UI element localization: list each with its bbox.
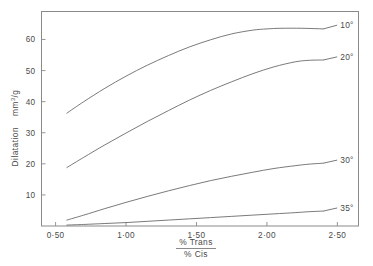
series-leader-line [323,160,337,163]
svg-text:Dilatation: Dilatation mm3/g [10,90,20,167]
series-line [67,163,323,220]
series-annotation-label: 20° [340,52,354,62]
plot-frame [42,12,359,227]
y-axis-tick-labels: 102030405060 [26,35,36,199]
series-annotation-labels: 10°20°30°35° [340,20,354,213]
x-axis-title: % Trans % Cis [176,237,216,259]
y-tick-label: 10 [26,191,36,200]
x-tick-label: 2·00 [258,231,276,240]
y-axis-ticks [42,39,46,194]
chart-canvas: 102030405060 0·501·001·502·002·50 10°20°… [0,0,373,266]
y-tick-label: 50 [26,67,36,76]
x-tick-label: 1·00 [117,231,135,240]
x-axis-title-numerator: % Trans [179,237,213,247]
x-tick-label: 0·50 [47,231,65,240]
series-leader-line [323,208,337,211]
series-annotation-label: 30° [340,155,354,165]
y-tick-label: 20 [26,160,36,169]
x-axis-title-denominator: % Cis [184,249,208,259]
series-line [67,60,323,168]
y-tick-label: 60 [26,35,36,44]
x-tick-label: 2·50 [328,231,346,240]
series-leader-line [323,25,337,29]
series-line [67,28,323,113]
y-axis-title-main: Dilatation [10,127,20,166]
series-lines [67,28,323,225]
y-tick-label: 30 [26,129,36,138]
series-line [67,211,323,225]
y-axis-title-units-tail: /g [10,90,20,98]
y-axis-title-units: mm [10,101,20,116]
chart-figure: 102030405060 0·501·001·502·002·50 10°20°… [0,0,373,266]
series-annotation-label: 35° [340,203,354,213]
series-leader-line [323,57,337,60]
y-axis-title: Dilatation mm3/g [10,90,20,167]
y-tick-label: 40 [26,98,36,107]
series-annotation-label: 10° [340,20,354,30]
series-leader-lines [323,25,337,211]
